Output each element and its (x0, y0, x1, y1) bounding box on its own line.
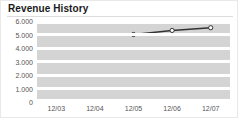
revenue-history-widget: Revenue History 6.0005.0004.0003.0002.00… (0, 0, 238, 118)
gridline (37, 74, 230, 77)
gridline (37, 21, 230, 24)
y-axis-tick-label: 2.000 (15, 72, 33, 79)
gridline (37, 99, 230, 102)
y-axis-tick-label: 5.000 (15, 31, 33, 38)
chart-plot-area (37, 21, 230, 102)
x-axis-tick-label: 12/07 (202, 105, 220, 112)
page-title: Revenue History (8, 3, 88, 14)
data-point-marker[interactable] (209, 26, 213, 30)
x-axis-tick-label: 12/05 (125, 105, 143, 112)
x-axis: 12/0312/0412/0512/0612/07 (37, 105, 230, 117)
y-axis-tick-label: 0 (29, 99, 33, 106)
y-axis-tick-label: 4.000 (15, 45, 33, 52)
gridline (37, 47, 230, 50)
title-divider (7, 16, 233, 17)
y-axis-tick-label: 3.000 (15, 58, 33, 65)
gridline (37, 33, 230, 36)
gridline (37, 60, 230, 63)
y-axis: 6.0005.0004.0003.0002.0001.0000 (1, 21, 35, 102)
gridline (37, 87, 230, 90)
x-axis-tick-label: 12/03 (48, 105, 66, 112)
x-axis-tick-label: 12/04 (86, 105, 104, 112)
data-point-marker[interactable] (170, 28, 174, 32)
x-axis-tick-label: 12/06 (163, 105, 181, 112)
y-axis-tick-label: 1.000 (15, 85, 33, 92)
y-axis-tick-label: 6.000 (15, 18, 33, 25)
